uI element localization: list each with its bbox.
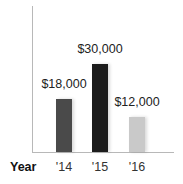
data-label: $30,000 xyxy=(70,42,130,56)
x-tick-label: '16 xyxy=(122,160,152,174)
x-tick-label: '15 xyxy=(85,160,115,174)
data-label: $12,000 xyxy=(107,95,167,109)
x-axis-line xyxy=(32,152,174,153)
bar xyxy=(92,64,108,152)
bar xyxy=(129,117,145,152)
bar xyxy=(56,99,72,152)
y-axis-line xyxy=(32,6,33,152)
x-tick-label: '14 xyxy=(49,160,79,174)
x-axis-title: Year xyxy=(10,160,36,174)
data-label: $18,000 xyxy=(34,77,94,91)
